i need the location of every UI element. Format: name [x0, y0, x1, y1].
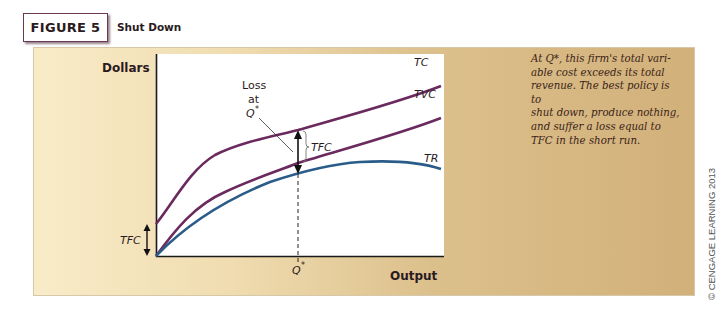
tc-label: TC — [414, 56, 429, 69]
loss-label-star: * — [255, 105, 259, 114]
loss-label-line1: Loss — [242, 79, 266, 92]
copyright-notice: © CENGAGE LEARNING 2013 — [706, 168, 717, 300]
qstar-tick-star: * — [301, 261, 305, 270]
caption-line: shut down, produce nothing, — [531, 106, 681, 120]
tfc-intercept-arrow-down-head — [144, 249, 151, 256]
caption-line: and suffer a loss equal to — [531, 120, 681, 134]
tfc-brace-label: TFC — [311, 141, 332, 154]
tr-label: TR — [424, 152, 438, 165]
chart: Dollars Output TC TVC TR Q * Loss at Q *… — [0, 0, 723, 320]
tfc-intercept-arrow-up-head — [144, 224, 151, 231]
figure-caption: At Q*, this firm's total vari- able cost… — [531, 52, 681, 147]
x-axis-label: Output — [390, 269, 438, 283]
caption-line: revenue. The best policy is to — [531, 79, 681, 106]
tfc-intercept-label: TFC — [120, 234, 141, 247]
tvc-label: TVC — [414, 88, 436, 101]
loss-label-q: Q — [246, 107, 255, 120]
qstar-tick-label: Q — [292, 264, 301, 277]
caption-line: At Q*, this firm's total vari- — [531, 52, 681, 66]
y-axis-label: Dollars — [102, 61, 150, 75]
caption-line: able cost exceeds its total — [531, 66, 681, 80]
caption-line: TFC in the short run. — [531, 134, 681, 148]
plot-area — [156, 54, 444, 256]
